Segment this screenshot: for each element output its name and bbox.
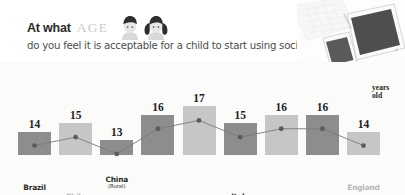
devices-photo-icon	[297, 0, 405, 66]
bar-value-label: 16	[265, 101, 298, 113]
bar-chart: 14Brazil15Chile(North)13China(Rural)16Ch…	[0, 62, 405, 195]
title-accent-text: AGE	[77, 20, 108, 36]
title-main-text: At what	[27, 21, 71, 35]
header-band: At what AGE do you feel it is ac	[0, 0, 405, 62]
bar[interactable]	[183, 106, 216, 155]
units-line-2: old	[372, 92, 402, 100]
category-label: Brazil	[18, 183, 51, 192]
children-avatars-group	[118, 13, 176, 43]
infographic-root: At what AGE do you feel it is ac	[0, 0, 405, 195]
bar[interactable]	[224, 123, 257, 155]
chart-plot-area: 14Brazil15Chile(North)13China(Rural)16Ch…	[18, 62, 388, 195]
bar-value-label: 14	[347, 118, 380, 130]
category-label: England	[347, 183, 380, 192]
bar[interactable]	[100, 140, 133, 155]
bar-value-label: 15	[59, 109, 92, 121]
girl-avatar-icon	[145, 16, 168, 40]
bar[interactable]	[306, 115, 339, 155]
bar[interactable]	[265, 115, 298, 155]
bar[interactable]	[141, 115, 174, 155]
units-annotation: years old	[372, 84, 402, 101]
bar[interactable]	[347, 132, 380, 155]
bar-value-label: 16	[141, 101, 174, 113]
bar-value-label: 13	[100, 126, 133, 138]
category-label: Chile	[59, 192, 92, 195]
bar-value-label: 16	[306, 101, 339, 113]
bar-value-label: 14	[18, 118, 51, 130]
boy-avatar-icon	[122, 16, 138, 40]
category-label: Italy	[224, 192, 257, 195]
page-title: At what AGE	[27, 20, 108, 36]
bar[interactable]	[18, 132, 51, 155]
bar-value-label: 17	[183, 92, 216, 104]
bar-value-label: 15	[224, 109, 257, 121]
bar[interactable]	[59, 123, 92, 155]
category-sublabel: (Rural)	[100, 183, 133, 189]
